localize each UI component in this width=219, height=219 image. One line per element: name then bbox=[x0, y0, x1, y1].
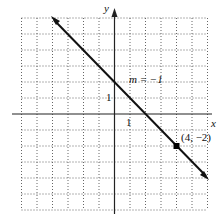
y-axis-label: y bbox=[104, 3, 109, 14]
slope-annotation: m = −1 bbox=[129, 74, 163, 85]
graph-canvas bbox=[0, 0, 219, 219]
y-tick-label: 1 bbox=[106, 92, 112, 103]
point-label: (4, −2) bbox=[181, 132, 211, 143]
data-line bbox=[54, 20, 206, 176]
data-point bbox=[174, 143, 180, 149]
x-axis-label: x bbox=[211, 118, 216, 129]
axes bbox=[12, 12, 212, 214]
x-tick-label: 1 bbox=[126, 117, 132, 128]
y-axis-arrow-icon bbox=[112, 8, 118, 17]
